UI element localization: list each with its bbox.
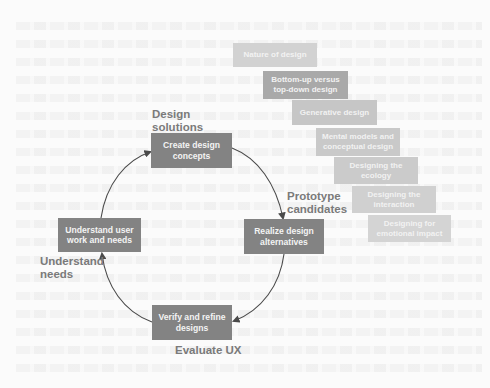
stair-designing-emotional-impact: Designing for emotional impact (368, 215, 451, 242)
box-label: Verify and refine designs (156, 312, 228, 333)
box-label: Understand user work and needs (62, 225, 137, 246)
box-create-design-concepts: Create design concepts (151, 133, 232, 168)
arrow-understand-to-concepts (101, 152, 150, 218)
arrow-verify-to-understand (102, 254, 152, 322)
phase-label-evaluate-ux: Evaluate UX (175, 344, 255, 357)
box-verify-and-refine-designs: Verify and refine designs (152, 305, 232, 340)
box-label: Create design concepts (155, 140, 228, 161)
arrow-concepts-to-alternatives (232, 148, 283, 218)
phase-label-design-solutions: Design solutions (152, 108, 222, 134)
arrow-alternatives-to-verify (234, 254, 284, 321)
stair-designing-interaction: Designing the interaction (352, 186, 436, 213)
phase-label-understand-needs: Understand needs (40, 255, 102, 281)
stair-generative-design: Generative design (292, 100, 377, 125)
stair-nature-of-design: Nature of design (233, 43, 317, 67)
box-realize-design-alternatives: Realize design alternatives (244, 219, 324, 254)
stair-mental-models: Mental models and conceptual design (316, 128, 400, 156)
stair-bottom-up-vs-top-down: Bottom-up versus top-down design (263, 71, 348, 99)
box-label: Realize design alternatives (248, 226, 320, 247)
phase-label-prototype-candidates: Prototype candidates (287, 190, 357, 216)
box-understand-user-work: Understand user work and needs (58, 218, 141, 252)
stair-designing-ecology: Designing the ecology (334, 157, 418, 184)
